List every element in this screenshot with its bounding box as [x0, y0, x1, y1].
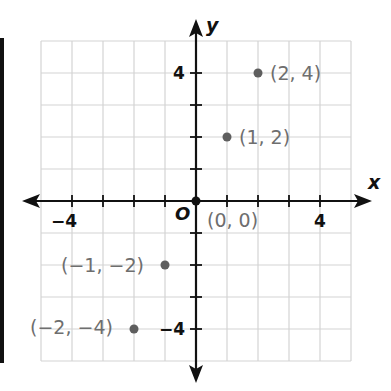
x-axis-label: x [368, 173, 380, 192]
point-label: (0, 0) [207, 211, 258, 230]
data-point [223, 133, 232, 142]
data-point [161, 261, 170, 270]
y-axis-label: y [206, 16, 218, 35]
point-label: (−1, −2) [61, 256, 144, 275]
origin-label: O [175, 205, 190, 223]
x-tick-label-4: 4 [314, 213, 326, 230]
x-tick-label-neg4: −4 [51, 213, 77, 230]
data-point [192, 197, 201, 206]
point-label: (1, 2) [239, 128, 290, 147]
y-tick-label-neg4: −4 [159, 321, 185, 338]
point-label: (2, 4) [270, 64, 321, 83]
point-label: (−2, −4) [30, 318, 113, 337]
data-point [254, 69, 263, 78]
data-point [130, 325, 139, 334]
y-tick-label-4: 4 [173, 65, 185, 82]
